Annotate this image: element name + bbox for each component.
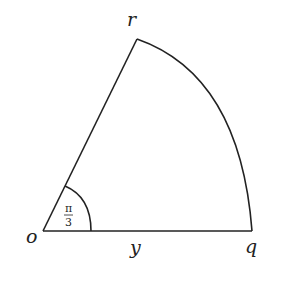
sector-outline bbox=[43, 39, 252, 231]
angle-denominator: 3 bbox=[65, 216, 72, 229]
radius-or bbox=[43, 39, 137, 231]
label-o: o bbox=[26, 225, 37, 247]
sector-diagram: r o y q π 3 bbox=[0, 0, 281, 282]
arc-rq bbox=[137, 39, 252, 231]
angle-numerator: π bbox=[65, 202, 72, 215]
angle-label: π 3 bbox=[64, 202, 73, 229]
label-q: q bbox=[245, 235, 257, 257]
label-r: r bbox=[127, 8, 138, 30]
label-y: y bbox=[129, 236, 141, 258]
